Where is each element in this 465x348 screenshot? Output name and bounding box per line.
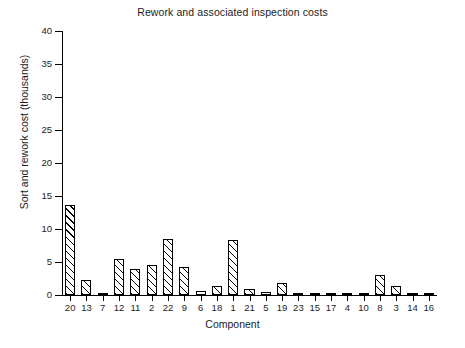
x-axis-tick-label: 16: [419, 303, 439, 313]
x-axis-tick: [347, 296, 348, 301]
x-axis-tick: [217, 296, 218, 301]
y-axis-tick: [55, 130, 62, 131]
x-axis-tick: [168, 296, 169, 301]
x-axis-tick: [201, 296, 202, 301]
bar: [163, 239, 173, 295]
bar: [326, 293, 336, 295]
y-axis-tick: [55, 229, 62, 230]
y-axis-tick: [55, 262, 62, 263]
x-axis-tick: [266, 296, 267, 301]
x-axis-tick: [315, 296, 316, 301]
y-axis-tick: [55, 31, 62, 32]
x-axis-tick: [119, 296, 120, 301]
bar: [277, 283, 287, 295]
bar: [212, 286, 222, 295]
x-axis-tick: [331, 296, 332, 301]
x-axis-tick: [413, 296, 414, 301]
x-axis-tick: [233, 296, 234, 301]
chart-title: Rework and associated inspection costs: [0, 6, 465, 18]
y-axis-tick: [55, 97, 62, 98]
chart-figure: Rework and associated inspection costs 0…: [0, 0, 465, 348]
bar: [81, 280, 91, 295]
x-axis-tick: [103, 296, 104, 301]
x-axis-tick: [380, 296, 381, 301]
bar: [407, 293, 417, 295]
x-axis-tick: [184, 296, 185, 301]
plot-area: [62, 31, 437, 295]
x-axis-tick: [282, 296, 283, 301]
y-axis-tick-label: 0: [18, 290, 52, 300]
bar: [65, 205, 75, 295]
x-axis-tick: [152, 296, 153, 301]
x-axis-tick: [298, 296, 299, 301]
bar: [179, 267, 189, 295]
bar: [424, 293, 434, 295]
x-axis-tick: [70, 296, 71, 301]
y-axis-tick: [55, 163, 62, 164]
bar: [196, 291, 206, 295]
x-axis-title: Component: [0, 318, 465, 330]
bar: [147, 265, 157, 295]
bar: [244, 289, 254, 295]
bar: [114, 259, 124, 295]
y-axis-tick: [55, 295, 62, 296]
bar: [391, 286, 401, 295]
x-axis-tick: [86, 296, 87, 301]
x-axis-tick: [396, 296, 397, 301]
bar: [342, 293, 352, 295]
bar: [130, 269, 140, 295]
x-axis-tick: [364, 296, 365, 301]
y-axis-tick-label: 5: [18, 257, 52, 267]
bar: [98, 293, 108, 295]
y-axis-tick: [55, 64, 62, 65]
x-axis-tick: [250, 296, 251, 301]
y-axis-title: Sort and rework cost (thousands): [18, 12, 30, 252]
bar: [375, 275, 385, 295]
y-axis-tick: [55, 196, 62, 197]
bar: [310, 293, 320, 295]
x-axis-tick: [135, 296, 136, 301]
bar: [261, 292, 271, 295]
x-axis-tick: [429, 296, 430, 301]
bar: [228, 240, 238, 295]
bar: [293, 293, 303, 295]
bar: [359, 293, 369, 295]
